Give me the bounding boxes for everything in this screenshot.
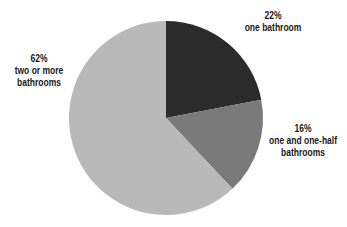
label-text: bathrooms [6,77,72,89]
label-pct: 22% [235,10,312,22]
pie-chart [0,0,347,227]
label-text: two or more [6,65,72,77]
label-pct: 16% [266,123,341,135]
label-one-and-one-half-bathrooms: 16% one and one-half bathrooms [266,123,341,159]
label-one-bathroom: 22% one bathroom [235,10,312,34]
label-text: bathrooms [266,147,341,159]
label-two-or-more-bathrooms: 62% two or more bathrooms [6,53,72,89]
label-text: one and one-half [266,135,341,147]
label-text: one bathroom [235,22,312,34]
label-pct: 62% [6,53,72,65]
